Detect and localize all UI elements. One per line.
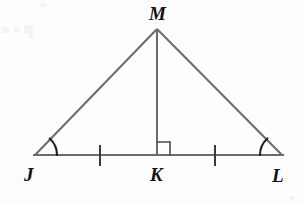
angle-arc-L	[260, 138, 267, 155]
angle-arc-J	[50, 139, 57, 156]
segment-JM	[35, 29, 157, 155]
scan-speck	[2, 27, 9, 33]
scan-speck	[13, 27, 20, 33]
segment-ML	[157, 29, 282, 155]
vertex-label-J: J	[24, 165, 34, 184]
vertex-label-L: L	[272, 166, 284, 185]
vertex-label-M: M	[149, 4, 166, 23]
geometry-figure: M J K L	[0, 0, 304, 205]
right-angle-mark-K	[157, 142, 170, 155]
scan-speck	[29, 32, 33, 39]
scan-speck	[40, 3, 46, 7]
vertex-label-K: K	[150, 165, 163, 184]
scan-speck	[289, 196, 294, 200]
